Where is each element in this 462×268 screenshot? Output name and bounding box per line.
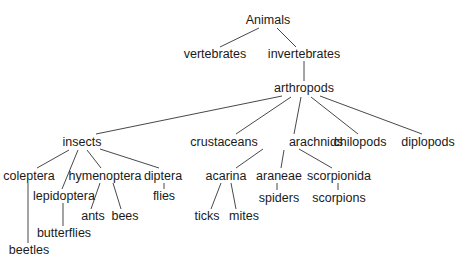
edge-acarina-ticks — [211, 183, 221, 209]
node-ants: ants — [81, 210, 105, 223]
node-butterflies: butterflies — [37, 227, 91, 240]
edge-animals-invertebrates — [277, 28, 296, 47]
node-ticks: ticks — [195, 210, 220, 223]
node-arthropods: arthropods — [274, 82, 334, 95]
node-coleptera: coleptera — [3, 170, 54, 183]
node-diptera: diptera — [144, 170, 182, 183]
node-vertebrates: vertebrates — [184, 48, 247, 61]
node-insects: insects — [63, 136, 102, 149]
node-invertebrates: invertebrates — [268, 48, 340, 61]
node-acarina: acarina — [206, 170, 247, 183]
node-crustaceans: crustaceans — [190, 136, 257, 149]
edge-arthropods-chilopods — [311, 97, 358, 134]
edge-acarina-mites — [231, 183, 236, 209]
node-scorpionida: scorpionida — [307, 170, 371, 183]
edge-insects-hymenoptera — [87, 150, 101, 168]
node-diplopods: diplopods — [401, 136, 455, 149]
edge-arachnids-acarina — [236, 149, 263, 168]
edge-arthropods-diplopods — [320, 96, 422, 134]
node-scorpions: scorpions — [312, 192, 366, 205]
edge-arthropods-insects — [96, 96, 282, 134]
node-lepidoptera: lepidoptera — [33, 190, 95, 203]
edge-arthropods-arachnids — [294, 97, 301, 134]
node-mites: mites — [229, 210, 259, 223]
taxonomy-tree-diagram: Animalsvertebratesinvertebratesarthropod… — [0, 0, 462, 268]
node-flies: flies — [153, 190, 175, 203]
node-beetles: beetles — [9, 244, 49, 257]
node-chilopods: chilopods — [334, 136, 387, 149]
edge-hymenoptera-bees — [113, 183, 121, 209]
node-hymenoptera: hymenoptera — [69, 170, 142, 183]
node-animals: Animals — [246, 14, 290, 27]
edge-arthropods-crustaceans — [236, 97, 291, 134]
edge-arachnids-araneae — [281, 150, 284, 168]
node-spiders: spiders — [259, 192, 299, 205]
edge-insects-coleptera — [37, 150, 69, 168]
node-araneae: araneae — [256, 170, 302, 183]
edge-insects-diptera — [100, 149, 159, 168]
edge-animals-vertebrates — [220, 28, 259, 47]
node-bees: bees — [111, 210, 138, 223]
edge-arachnids-scorpionida — [299, 149, 332, 168]
